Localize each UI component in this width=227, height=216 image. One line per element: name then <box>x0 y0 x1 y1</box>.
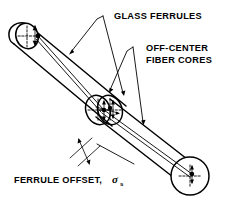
upper-fiber-core <box>36 36 103 112</box>
label-glass-ferrules: GLASS FERRULES <box>114 11 202 21</box>
label-ferrule-offset: FERRULE OFFSET, <box>14 175 102 185</box>
label-offset-sigma-symbol: σ <box>112 173 119 185</box>
offset-dimension-arrow <box>70 138 100 166</box>
label-off-center-line1: OFF-CENTER <box>146 43 208 53</box>
label-offset-subscript: s <box>120 180 124 187</box>
figure-container: GLASS FERRULES OFF-CENTER FIBER CORES FE… <box>0 0 227 216</box>
glass-ferrules-leaders <box>69 16 125 96</box>
ferrule-splice-diagram: GLASS FERRULES OFF-CENTER FIBER CORES FE… <box>0 0 227 216</box>
ferrule-offset-leader <box>97 144 134 164</box>
label-off-center-line2: FIBER CORES <box>146 55 212 65</box>
